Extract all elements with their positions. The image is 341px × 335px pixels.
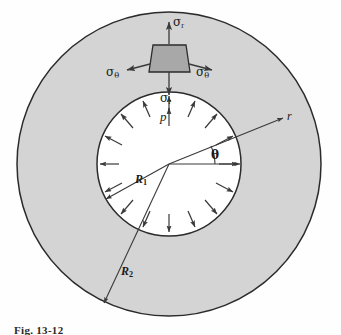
stress-element-trapezoid (149, 45, 190, 72)
figure-caption: Fig. 13-12 (14, 324, 63, 335)
figure-thick-walled-cylinder: σr σr σθ σθ p r θ R1 R2 Fig. 13-12 (0, 0, 341, 335)
pressure-label: p (160, 110, 167, 123)
sigma-theta-left-label: σθ (106, 66, 119, 79)
theta-label: θ (211, 149, 219, 161)
sigma-r-bottom-label: σr (160, 92, 171, 106)
radius-vector-label: r (287, 110, 292, 122)
outer-radius-label: R2 (121, 265, 133, 279)
sigma-r-top-label: σr (173, 16, 184, 30)
sigma-theta-right-label: σθ (196, 66, 209, 79)
inner-radius-label: R1 (135, 173, 147, 187)
cylinder-cross-section-svg (0, 0, 341, 335)
